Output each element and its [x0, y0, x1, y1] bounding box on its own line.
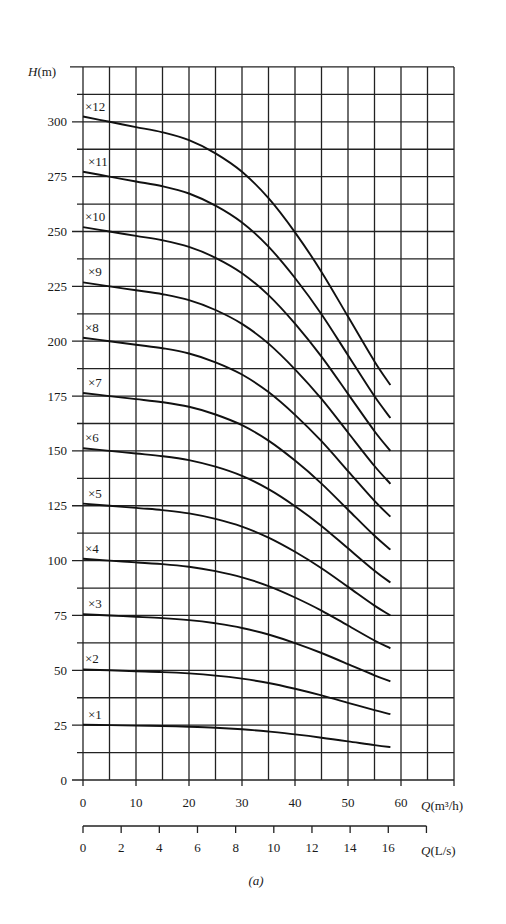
x-tick-label: 10: [130, 795, 143, 810]
x-axis-label: Q(m³/h): [421, 798, 463, 813]
head-curves: [83, 117, 390, 748]
y-tick-label: 150: [48, 443, 68, 458]
x-axis-ls: 0246810121416: [80, 826, 427, 855]
y-tick-label: 25: [54, 718, 67, 733]
y-tick-label: 175: [48, 389, 68, 404]
curve-label: ×1: [88, 707, 102, 722]
head-curve: [83, 504, 390, 616]
x2-tick-label: 4: [156, 840, 163, 855]
x-tick-label: 30: [236, 795, 249, 810]
x-tick-label: 50: [342, 795, 355, 810]
y-tick-label: 0: [61, 773, 68, 788]
y-tick-label: 250: [48, 224, 68, 239]
x-tick-label: 20: [183, 795, 196, 810]
x-tick-label: 60: [395, 795, 408, 810]
chart-grid: [70, 67, 454, 786]
head-curve: [83, 227, 390, 451]
x2-tick-label: 2: [118, 840, 125, 855]
curve-label: ×11: [88, 154, 108, 169]
curve-label: ×10: [85, 209, 105, 224]
pump-performance-chart: 0255075100125150175200225250275300 01020…: [0, 0, 506, 924]
y-tick-label: 225: [48, 279, 68, 294]
y-tick-label: 125: [48, 498, 68, 513]
curve-label: ×7: [88, 375, 102, 390]
curve-label: ×8: [85, 320, 99, 335]
curve-label: ×9: [88, 264, 102, 279]
head-curve: [83, 669, 390, 714]
curve-labels: ×1×2×3×4×5×6×7×8×9×10×11×12: [85, 99, 108, 722]
y-axis-label: H(m): [27, 64, 56, 79]
curve-label: ×4: [85, 541, 99, 556]
figure-caption: (a): [248, 873, 263, 888]
x2-tick-label: 14: [344, 840, 358, 855]
x-tick-label: 0: [80, 795, 87, 810]
y-tick-label: 300: [48, 114, 68, 129]
curve-label: ×2: [85, 651, 99, 666]
y-tick-label: 100: [48, 553, 68, 568]
head-curve: [83, 725, 390, 747]
head-curve: [83, 393, 390, 550]
curve-label: ×12: [85, 99, 105, 114]
y-tick-label: 275: [48, 169, 68, 184]
x2-tick-label: 16: [382, 840, 396, 855]
x2-tick-label: 12: [305, 840, 318, 855]
y-tick-label: 50: [54, 663, 67, 678]
curve-label: ×3: [88, 596, 102, 611]
y-tick-label: 75: [54, 608, 67, 623]
x-tick-label: 40: [289, 795, 302, 810]
x2-tick-label: 6: [194, 840, 201, 855]
head-curve: [83, 172, 390, 418]
y-tick-label: 200: [48, 334, 68, 349]
x2-axis-label: Q(L/s): [421, 843, 456, 858]
x2-tick-label: 10: [267, 840, 280, 855]
x-axis-m3h: 0102030405060: [80, 795, 408, 810]
y-axis: 0255075100125150175200225250275300: [48, 114, 68, 787]
x2-tick-label: 8: [232, 840, 239, 855]
head-curve: [83, 559, 390, 649]
x2-tick-label: 0: [80, 840, 87, 855]
head-curve: [83, 117, 390, 386]
curve-label: ×6: [85, 430, 99, 445]
curve-label: ×5: [88, 486, 102, 501]
